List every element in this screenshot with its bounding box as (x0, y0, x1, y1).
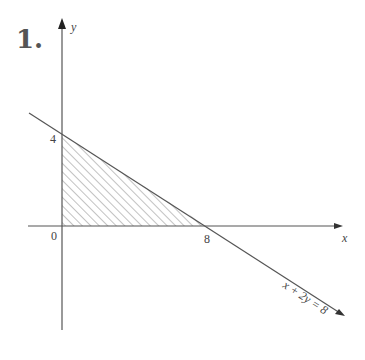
line-equation-label: x + 2y = 8 (280, 277, 331, 317)
origin-label: 0 (51, 229, 57, 243)
y-intercept-label: 4 (50, 132, 56, 146)
x-axis-label: x (341, 231, 348, 245)
x-intercept-label: 8 (204, 232, 210, 246)
graph: y x 0 4 8 x + 2y = 8 (0, 0, 365, 360)
y-axis-label: y (70, 20, 77, 34)
y-axis-arrow-icon (58, 18, 66, 29)
x-axis-arrow-icon (334, 223, 343, 229)
